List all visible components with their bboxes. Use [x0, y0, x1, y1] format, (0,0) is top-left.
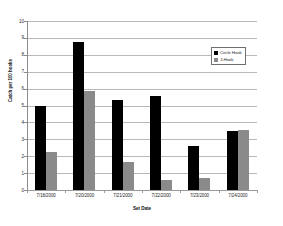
bar	[150, 96, 161, 190]
y-tick-label: 8	[2, 52, 24, 57]
bar-group	[27, 21, 65, 190]
y-tick-label: 6	[2, 86, 24, 91]
x-tick-label: 7/24/2000	[219, 193, 257, 199]
bar	[238, 130, 249, 190]
y-tick-label: 7	[2, 69, 24, 74]
y-tick-label: 0	[2, 188, 24, 193]
x-tick-mark	[27, 190, 28, 193]
bar-chart: Catch per 100 hooks 012345678910 7/18/20…	[0, 0, 283, 226]
x-tick-label: 7/23/2000	[180, 193, 218, 199]
x-tick-mark	[180, 190, 181, 193]
y-tick-label: 9	[2, 35, 24, 40]
y-tick-label: 5	[2, 103, 24, 108]
y-tick-label: 1	[2, 171, 24, 176]
bar	[161, 180, 172, 190]
legend-label: J-Hook	[220, 57, 233, 62]
bar-group	[65, 21, 103, 190]
legend-item: Circle Hook	[214, 50, 242, 55]
legend-swatch-icon	[214, 58, 218, 62]
legend-swatch-icon	[214, 51, 218, 55]
bar	[188, 146, 199, 190]
bar	[35, 106, 46, 191]
x-tick-mark	[142, 190, 143, 193]
bar	[73, 42, 84, 190]
x-axis-title: Set Date	[27, 206, 257, 212]
x-tick-label: 7/18/2000	[27, 193, 65, 199]
bar	[227, 131, 238, 190]
y-tick-label: 3	[2, 137, 24, 142]
x-tick-mark	[104, 190, 105, 193]
y-axis-title: Catch per 100 hooks	[8, 39, 13, 123]
bar-group	[142, 21, 180, 190]
y-tick-label: 10	[2, 19, 24, 24]
bar	[123, 162, 134, 190]
y-tick-label: 2	[2, 154, 24, 159]
chart-legend: Circle HookJ-Hook	[211, 47, 246, 65]
y-tick-label: 4	[2, 120, 24, 125]
bar	[199, 178, 210, 190]
bar	[46, 152, 57, 190]
x-tick-mark	[65, 190, 66, 193]
legend-item: J-Hook	[214, 57, 242, 62]
x-tick-mark	[219, 190, 220, 193]
x-axis-ticks: 7/18/20007/20/20007/21/20007/22/20007/23…	[27, 193, 257, 199]
bar-group	[104, 21, 142, 190]
bar	[112, 100, 123, 190]
x-tick-mark	[257, 190, 258, 193]
x-tick-label: 7/21/2000	[104, 193, 142, 199]
x-tick-label: 7/22/2000	[142, 193, 180, 199]
legend-label: Circle Hook	[220, 50, 242, 55]
bar	[84, 91, 95, 190]
x-tick-label: 7/20/2000	[65, 193, 103, 199]
